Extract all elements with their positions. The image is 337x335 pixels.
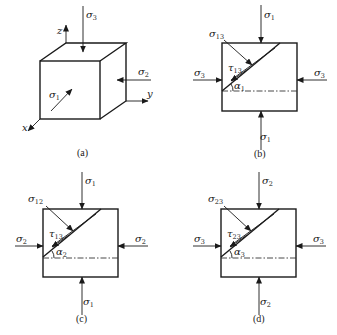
normal-stress-label: σ12 [28, 193, 43, 206]
shear-line [231, 48, 275, 80]
axis-x-label: x [22, 122, 28, 133]
sigma3-label: σ3 [86, 9, 97, 22]
left-stress-label: σ2 [16, 233, 27, 246]
shear-stress-label: τ13 [49, 228, 63, 241]
caption-d: (d) [253, 313, 265, 325]
shear-line [230, 214, 274, 246]
bottom-stress-label: σ1 [83, 296, 94, 309]
x-axis-arrow-icon [28, 119, 40, 131]
caption-a: (a) [77, 147, 88, 159]
normal-stress-label: σ13 [209, 28, 224, 41]
left-stress-label: σ3 [194, 67, 205, 80]
angle-arc-icon [230, 251, 232, 258]
panel-d-section: σ2 σ2 σ3 σ3 σ23 τ23 α3 (d) [193, 172, 326, 325]
top-stress-label: σ1 [85, 175, 96, 188]
element-box [221, 209, 296, 277]
left-stress-label: σ3 [194, 233, 205, 246]
shear-stress-label: τ23 [227, 228, 241, 241]
stress-diagram: z y x σ3 σ2 σ1 (a) σ1 σ1 σ3 σ3 σ13 [0, 0, 337, 335]
panel-a-cube: z y x σ3 σ2 σ1 (a) [22, 6, 153, 159]
top-stress-label: σ2 [262, 175, 273, 188]
axis-z-label: z [56, 25, 63, 36]
normal-stress-label: σ23 [208, 193, 223, 206]
angle-arc-icon [52, 251, 54, 258]
sigma2-label: σ2 [138, 66, 149, 79]
bottom-stress-label: σ2 [260, 296, 271, 309]
angle-arc-icon [231, 84, 233, 91]
shear-stress-label: τ13 [228, 62, 242, 75]
right-stress-label: σ3 [313, 233, 324, 246]
top-stress-label: σ1 [264, 9, 275, 22]
panel-b-section: σ1 σ1 σ3 σ3 σ13 τ13 α1 (b) [193, 5, 327, 160]
caption-c: (c) [76, 313, 87, 325]
sigma1-label: σ1 [49, 89, 60, 102]
shear-line [52, 214, 96, 246]
panel-c-section: σ1 σ1 σ2 σ2 σ12 τ13 α2 (c) [15, 172, 148, 325]
cube-right-face [100, 43, 126, 119]
right-stress-label: σ3 [314, 67, 325, 80]
caption-b: (b) [254, 148, 266, 160]
axis-y-label: y [146, 88, 153, 99]
angle-label: α3 [234, 246, 245, 259]
right-stress-label: σ2 [135, 233, 146, 246]
element-box [222, 43, 297, 111]
bottom-stress-label: σ1 [260, 131, 271, 144]
element-box [43, 209, 118, 277]
angle-label: α2 [56, 246, 67, 259]
